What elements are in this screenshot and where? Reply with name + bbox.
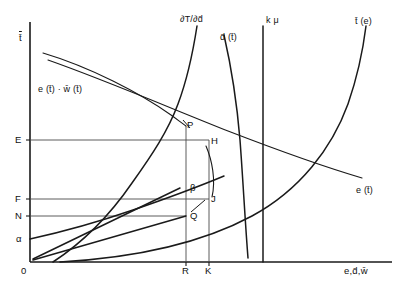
curve-e-of-t-bar bbox=[48, 60, 362, 178]
point-label-h: H bbox=[211, 136, 218, 146]
figure-root: t̄ e,d̄,w̄ 0 E F N α R K ∂T/∂d̄ d̄ (t̄) … bbox=[0, 0, 411, 297]
curve-label-e-of-t-bar: e (t̄) bbox=[356, 186, 373, 195]
curve-label-t-bar-of-e: t̄ (e) bbox=[355, 17, 372, 26]
x-axis-label: e,d̄,w̄ bbox=[344, 266, 368, 276]
curve-h-to-j bbox=[206, 146, 214, 197]
x-tick-label-K: K bbox=[205, 266, 212, 276]
diagram-canvas bbox=[0, 0, 411, 297]
curve-marginal-transfer bbox=[53, 26, 197, 262]
y-tick-label-N: N bbox=[15, 211, 22, 221]
y-tick-label-alpha: α bbox=[16, 234, 22, 244]
x-tick-label-R: R bbox=[182, 266, 189, 276]
curve-label-k-mu: k μ bbox=[266, 16, 279, 25]
curve-label-e-times-w: e (t̄) · w̄ (t̄) bbox=[38, 85, 82, 94]
curve-label-marginal-transfer: ∂T/∂d̄ bbox=[180, 15, 203, 24]
point-label-beta: β bbox=[190, 183, 196, 193]
y-tick-label-F: F bbox=[15, 194, 21, 204]
point-label-q: Q bbox=[190, 211, 198, 221]
curve-label-d-bar-of-t-bar: d̄ (t̄) bbox=[220, 33, 237, 42]
point-label-p: P bbox=[187, 120, 194, 130]
origin-label: 0 bbox=[21, 266, 26, 276]
y-tick-label-E: E bbox=[15, 135, 22, 145]
y-axis-label: t̄ bbox=[19, 33, 22, 43]
point-label-j: J bbox=[211, 194, 216, 204]
